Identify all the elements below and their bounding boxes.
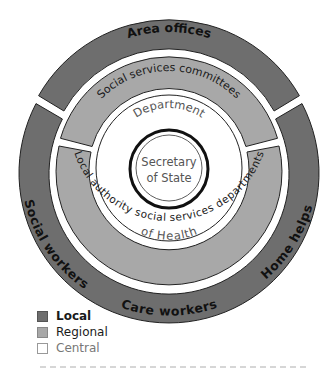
legend-label-central: Central [56,340,100,356]
of-state-label: of State [146,171,191,185]
legend-item-central: Central [37,340,108,356]
legend-item-local: Local [37,308,108,324]
cut-off-caption [40,364,310,369]
legend: Local Regional Central [37,308,108,356]
legend-label-regional: Regional [56,324,108,340]
central-swatch [37,343,48,354]
regional-swatch [37,327,48,338]
local-swatch [37,311,48,322]
secretary-label: Secretary [141,155,197,169]
legend-item-regional: Regional [37,324,108,340]
legend-label-local: Local [56,308,91,324]
